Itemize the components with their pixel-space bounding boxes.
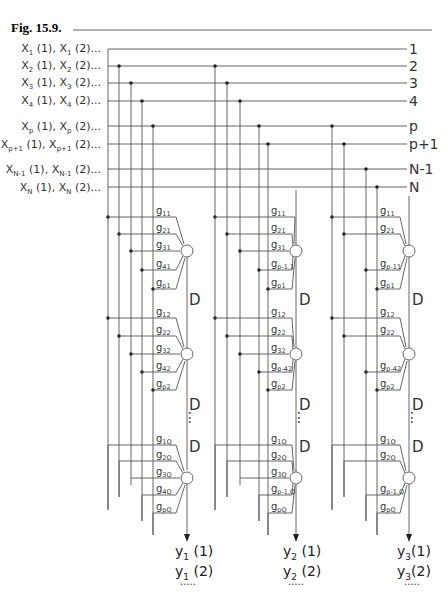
row-labels: 1 2 3 4 p p+1 N-1 N: [409, 41, 439, 195]
svg-text:g2Q: g2Q: [156, 449, 172, 462]
delay-label: D: [412, 438, 424, 456]
svg-text:g21: g21: [271, 222, 286, 235]
output-y1-dots: .....: [180, 576, 196, 587]
svg-text:g31: g31: [271, 239, 286, 252]
input-label-p: Xp (1), Xp (2)...: [21, 120, 101, 135]
svg-text:gp-1,Q: gp-1,Q: [380, 483, 404, 496]
svg-text:gp-1,1: gp-1,1: [271, 258, 294, 271]
svg-text:gp2: gp2: [156, 378, 171, 391]
svg-text:g12: g12: [271, 306, 286, 319]
stage-ellipsis: ⋮: [292, 409, 306, 425]
delay-label: D: [412, 291, 424, 309]
svg-text:gp-1,Q: gp-1,Q: [271, 483, 295, 496]
row-label-1: 1: [409, 41, 418, 57]
input-label-n: XN (1), XN (2)...: [20, 181, 101, 196]
svg-text:g4Q: g4Q: [156, 483, 172, 496]
row-label-n-minus-1: N-1: [409, 161, 433, 177]
svg-text:gp-42: gp-42: [380, 360, 401, 373]
input-label-1: X1 (1), X1 (2)...: [21, 42, 101, 57]
svg-text:gpQ: gpQ: [380, 501, 396, 514]
output-y3-dots: .....: [404, 576, 420, 587]
input-label-2: X2 (1), X2 (2)...: [21, 59, 101, 74]
svg-text:gpQ: gpQ: [271, 501, 287, 514]
svg-text:g32: g32: [271, 342, 286, 355]
row-label-p-plus-1: p+1: [409, 136, 439, 152]
svg-text:g11: g11: [156, 205, 171, 218]
row-label-n: N: [409, 179, 419, 195]
svg-text:g12: g12: [380, 306, 395, 319]
svg-text:g11: g11: [271, 205, 286, 218]
svg-text:g11: g11: [380, 205, 395, 218]
delay-label: D: [299, 291, 311, 309]
output-y2-line1: y2 (1): [283, 543, 321, 562]
svg-text:g12: g12: [156, 306, 171, 319]
svg-text:g21: g21: [380, 222, 395, 235]
svg-text:g41: g41: [156, 258, 171, 271]
neuron-group-2: D D D ⋮: [213, 64, 310, 542]
svg-text:g22: g22: [156, 324, 171, 337]
svg-text:g42: g42: [156, 360, 171, 373]
svg-text:g1Q: g1Q: [380, 433, 396, 446]
output-labels: y1 (1) y1 (2) ..... y2 (1) y2 (2) ..... …: [175, 543, 431, 587]
svg-text:g2Q: g2Q: [380, 449, 396, 462]
delay-label: D: [189, 291, 201, 309]
output-y1-line1: y1 (1): [175, 543, 213, 562]
svg-text:gp1: gp1: [156, 277, 171, 290]
row-label-p: p: [409, 118, 418, 134]
delay-label: D: [189, 438, 201, 456]
input-label-n-minus-1: XN-1 (1), XN-1 (2)...: [6, 163, 101, 178]
input-label-3: X3 (1), X3 (2)...: [21, 76, 101, 91]
svg-text:g1Q: g1Q: [156, 433, 172, 446]
svg-text:gp2: gp2: [271, 378, 286, 391]
svg-text:g1Q: g1Q: [271, 433, 287, 446]
svg-text:g32: g32: [156, 342, 171, 355]
svg-text:gp-42: gp-42: [271, 360, 292, 373]
input-label-p-plus-1: Xp+1 (1), Xp+1 (2)...: [1, 138, 101, 153]
stage-ellipsis: ⋮: [183, 409, 197, 425]
svg-text:g3Q: g3Q: [156, 466, 172, 479]
figure-title: Fig. 15.9.: [11, 20, 62, 35]
svg-text:g2Q: g2Q: [271, 449, 287, 462]
output-y3-line1: y3(1): [397, 543, 431, 562]
svg-text:g21: g21: [156, 222, 171, 235]
svg-text:g3Q: g3Q: [271, 466, 287, 479]
neuron-group-1: D D D ⋮: [106, 49, 200, 542]
svg-text:g31: g31: [156, 239, 171, 252]
svg-text:g22: g22: [380, 324, 395, 337]
svg-text:gp1: gp1: [380, 277, 395, 290]
output-y2-dots: .....: [288, 576, 304, 587]
delay-label: D: [299, 438, 311, 456]
row-label-2: 2: [409, 58, 418, 74]
svg-text:gpQ: gpQ: [156, 501, 172, 514]
row-label-3: 3: [409, 75, 418, 91]
svg-text:gp2: gp2: [380, 378, 395, 391]
svg-text:gp1: gp1: [271, 277, 286, 290]
input-label-4: X4 (1), X4 (2)...: [21, 94, 101, 109]
weights-group-3: g11 g21 gp-11 gp1 g12 g22 gp-42 gp2 g1Q …: [380, 205, 404, 514]
svg-text:gp-11: gp-11: [380, 258, 401, 271]
stage-ellipsis: ⋮: [405, 409, 419, 425]
svg-text:g22: g22: [271, 324, 286, 337]
row-label-4: 4: [409, 93, 418, 109]
neural-network-diagram: Fig. 15.9. X1 (1), X1 (2)... X2 (1), X2 …: [0, 0, 448, 595]
input-labels: X1 (1), X1 (2)... X2 (1), X2 (2)... X3 (…: [1, 42, 101, 196]
